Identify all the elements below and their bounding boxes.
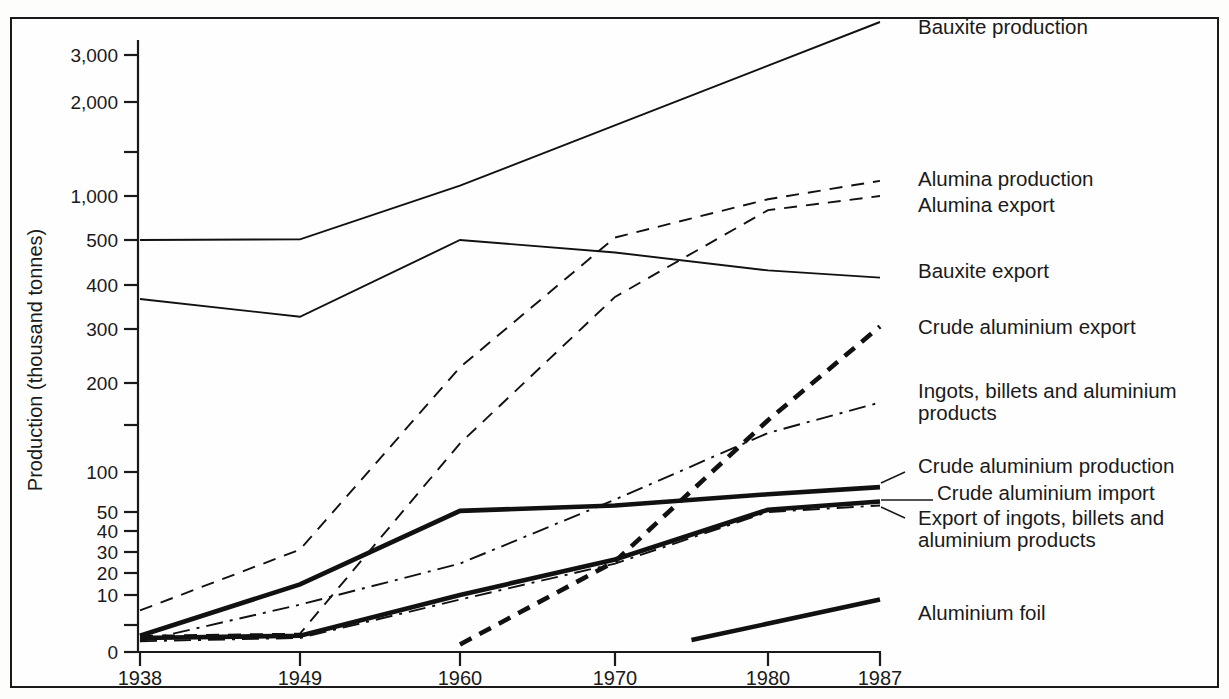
series-labels: Bauxite production Alumina production Al… [918,15,1177,624]
y-label-300: 300 [86,319,118,340]
series-label-ingots-billets-line2: products [918,401,997,424]
series-line-bauxite-export [140,240,880,317]
y-label-200: 200 [86,373,118,394]
x-label-1987: 1987 [858,667,903,689]
figure-container: 3,000 2,000 1,000 500 400 300 200 100 50… [0,0,1229,699]
y-label-100: 100 [86,462,118,483]
series-label-aluminium-foil: Aluminium foil [918,601,1046,624]
series-label-crude-aluminium-import: Crude aluminium import [937,481,1155,504]
y-label-500: 500 [86,230,118,251]
y-label-2000: 2,000 [70,92,118,113]
y-label-400: 400 [86,275,118,296]
y-axis-ticks [124,55,138,652]
x-axis-tick-labels: 1938 1949 1960 1970 1980 1987 [118,667,903,689]
x-label-1949: 1949 [278,667,323,689]
series-label-crude-aluminium-export: Crude aluminium export [918,315,1136,338]
series-line-export-of-ingots-billets-and-aluminium-products [140,505,880,641]
y-label-50: 50 [97,502,118,523]
series-line-bauxite-production [140,22,880,240]
y-label-30: 30 [97,542,118,563]
y-label-20: 20 [97,563,118,584]
series-label-export-ingots-line1: Export of ingots, billets and [918,506,1164,529]
series-paths [140,22,880,644]
line-chart: 3,000 2,000 1,000 500 400 300 200 100 50… [0,0,1229,699]
leader-export-of-ingots [881,507,905,518]
y-label-3000: 3,000 [70,45,118,66]
series-label-ingots-billets-line1: Ingots, billets and aluminium [918,379,1177,402]
series-label-alumina-export: Alumina export [918,193,1055,216]
y-axis-tick-labels: 3,000 2,000 1,000 500 400 300 200 100 50… [70,45,118,663]
series-line-aluminium-foil [692,600,881,641]
series-label-bauxite-production: Bauxite production [918,15,1088,38]
x-label-1980: 1980 [746,667,791,689]
y-label-10: 10 [97,585,118,606]
series-label-crude-aluminium-production: Crude aluminium production [918,454,1174,477]
x-label-1960: 1960 [438,667,483,689]
y-label-0: 0 [107,642,118,663]
series-line-alumina-production [140,181,880,611]
series-label-export-ingots-line2: aluminium products [918,528,1096,551]
series-line-crude-aluminium-export [460,326,880,644]
series-line-ingots-billets-and-aluminium-products [140,402,880,641]
y-label-40: 40 [97,521,118,542]
series-label-bauxite-export: Bauxite export [918,259,1049,282]
series-label-alumina-production: Alumina production [918,167,1094,190]
leader-crude-aluminium-production [881,472,905,483]
y-label-1000: 1,000 [70,186,118,207]
x-label-1970: 1970 [593,667,638,689]
y-axis-title: Production (thousand tonnes) [24,229,46,491]
series-line-alumina-export [140,196,880,636]
x-label-1938: 1938 [118,667,163,689]
x-axis-ticks [140,652,880,666]
